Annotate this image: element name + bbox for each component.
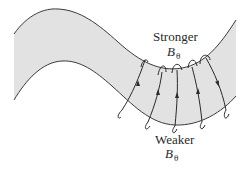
flux-tube-body	[14, 9, 236, 125]
label-stronger-subscript: θ	[176, 52, 180, 61]
label-weaker-symbol: B	[165, 147, 173, 160]
label-weaker: Weaker	[155, 133, 194, 146]
label-stronger-symbol: B	[167, 45, 175, 58]
label-weaker-subscript: θ	[174, 154, 178, 163]
flux-tube-diagram	[0, 0, 243, 171]
label-stronger: Stronger	[153, 30, 198, 43]
